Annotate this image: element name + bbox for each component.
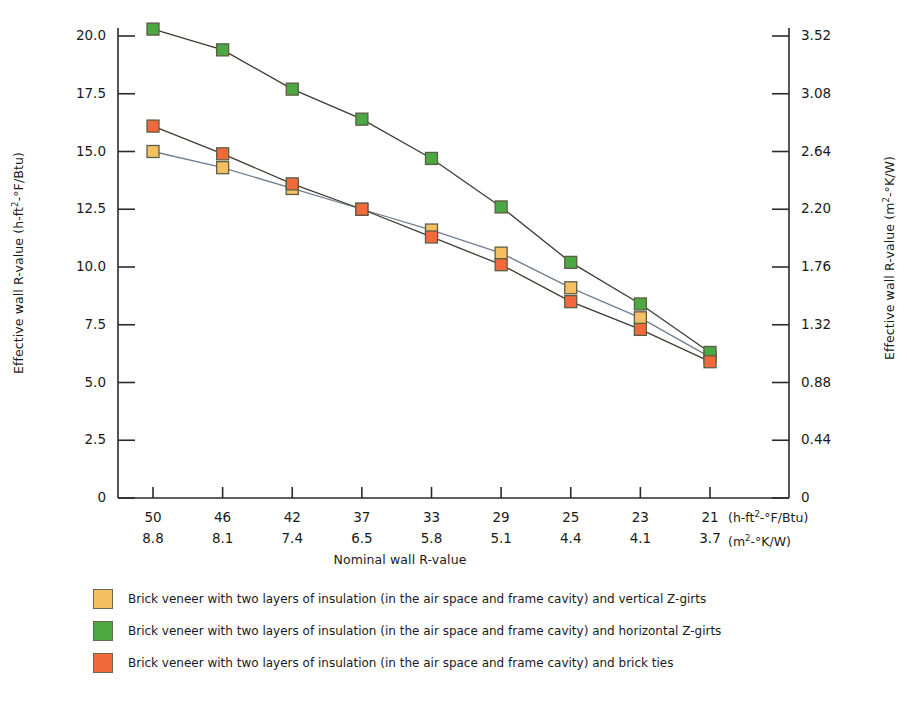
y-axis-left-tick-label: 10.0: [46, 258, 106, 274]
x-axis-tick-label-ip: 42: [252, 509, 332, 525]
legend-swatch-icon: [93, 653, 113, 673]
x-axis-tick-group: 508.8: [113, 509, 193, 546]
data-point-marker: [217, 148, 229, 160]
x-axis-tick-label-ip: 46: [183, 509, 263, 525]
data-point-marker: [495, 247, 507, 259]
x-axis-tick-group: 468.1: [183, 509, 263, 546]
y-axis-right-tick-label: 0: [801, 489, 861, 505]
x-axis-tick-label-si: 4.4: [531, 530, 611, 546]
y-axis-left-tick-label: 0: [46, 489, 106, 505]
y-axis-left-tick-label: 5.0: [46, 374, 106, 390]
x-axis-unit-ip: (h-ft2-°F/Btu): [728, 509, 808, 525]
legend-item-label: Brick veneer with two layers of insulati…: [128, 592, 706, 606]
data-point-marker: [704, 356, 716, 368]
x-axis-tick-group: 254.4: [531, 509, 611, 546]
data-point-marker: [286, 83, 298, 95]
x-axis-tick-label-si: 5.1: [461, 530, 541, 546]
x-axis-tick-label-si: 6.5: [322, 530, 402, 546]
y-axis-left-tick-label: 20.0: [46, 27, 106, 43]
y-axis-left-tick-label: 12.5: [46, 200, 106, 216]
data-point-marker: [217, 162, 229, 174]
data-point-marker: [426, 231, 438, 243]
legend-item-label: Brick veneer with two layers of insulati…: [128, 624, 721, 638]
chart-figure: Effective wall R-value (h-ft2-°F/Btu) Ef…: [0, 0, 907, 703]
data-point-marker: [565, 296, 577, 308]
data-point-marker: [495, 259, 507, 271]
y-axis-right-tick-label: 1.32: [801, 316, 861, 332]
y-axis-right-tick-label: 0.88: [801, 374, 861, 390]
data-point-marker: [495, 201, 507, 213]
x-axis-tick-label-si: 8.8: [113, 530, 193, 546]
y-axis-right-tick-label: 0.44: [801, 431, 861, 447]
data-point-marker: [356, 113, 368, 125]
chart-legend: Brick veneer with two layers of insulati…: [93, 583, 893, 679]
x-axis-tick-label-ip: 37: [322, 509, 402, 525]
legend-item[interactable]: Brick veneer with two layers of insulati…: [93, 647, 893, 679]
data-point-marker: [634, 312, 646, 324]
data-point-marker: [356, 203, 368, 215]
data-point-marker: [634, 323, 646, 335]
x-axis-tick-label-ip: 23: [600, 509, 680, 525]
y-axis-left-tick-label: 15.0: [46, 143, 106, 159]
x-axis-tick-group: 335.8: [392, 509, 472, 546]
x-axis-tick-label-ip: 25: [531, 509, 611, 525]
legend-swatch-icon: [93, 621, 113, 641]
y-axis-right-tick-label: 3.52: [801, 27, 861, 43]
legend-item-label: Brick veneer with two layers of insulati…: [128, 656, 673, 670]
x-axis-tick-label-ip: 29: [461, 509, 541, 525]
y-axis-right-tick-label: 2.20: [801, 200, 861, 216]
x-axis-tick-group: 376.5: [322, 509, 402, 546]
data-point-marker: [217, 44, 229, 56]
x-axis-tick-label-si: 5.8: [392, 530, 472, 546]
x-axis-tick-group: 234.1: [600, 509, 680, 546]
x-axis-tick-label-si: 4.1: [600, 530, 680, 546]
x-axis-tick-label-ip: 33: [392, 509, 472, 525]
legend-item[interactable]: Brick veneer with two layers of insulati…: [93, 583, 893, 615]
x-axis-tick-label-si: 8.1: [183, 530, 263, 546]
legend-swatch-icon: [93, 589, 113, 609]
y-axis-left-tick-label: 2.5: [46, 431, 106, 447]
x-axis-tick-label-si: 7.4: [252, 530, 332, 546]
data-point-marker: [147, 146, 159, 158]
data-point-marker: [565, 256, 577, 268]
legend-item[interactable]: Brick veneer with two layers of insulati…: [93, 615, 893, 647]
y-axis-right-tick-label: 1.76: [801, 258, 861, 274]
y-axis-left-tick-label: 7.5: [46, 316, 106, 332]
y-axis-right-tick-label: 2.64: [801, 143, 861, 159]
y-axis-right-tick-label: 3.08: [801, 85, 861, 101]
data-point-marker: [565, 282, 577, 294]
x-axis-unit-si: (m2-°K/W): [728, 533, 791, 549]
data-point-marker: [426, 152, 438, 164]
x-axis-tick-group: 427.4: [252, 509, 332, 546]
data-point-marker: [147, 120, 159, 132]
x-axis-tick-group: 295.1: [461, 509, 541, 546]
data-point-marker: [286, 178, 298, 190]
y-axis-left-tick-label: 17.5: [46, 85, 106, 101]
data-point-marker: [147, 23, 159, 35]
data-point-marker: [634, 298, 646, 310]
x-axis-tick-label-ip: 50: [113, 509, 193, 525]
